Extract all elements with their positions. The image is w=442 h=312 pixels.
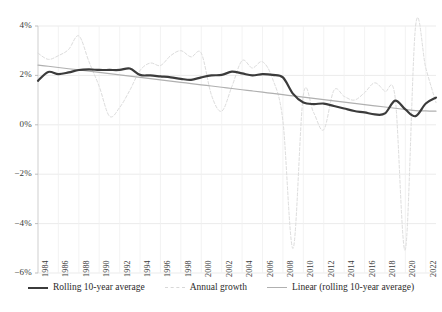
series-line-annual-growth — [38, 18, 436, 251]
x-axis-tick-label: 2002 — [225, 260, 234, 277]
chart-container: 4%2%0%−2%−4%−6% 198419861988199019921994… — [0, 0, 442, 312]
x-axis-tick-label: 1992 — [123, 260, 132, 277]
x-axis-tick-label: 2014 — [347, 260, 356, 277]
x-axis-tick-label: 2010 — [306, 260, 315, 277]
x-axis-tick-label: 2006 — [266, 260, 275, 277]
x-axis-tick-label: 1984 — [41, 260, 50, 277]
y-axis-tick-label: −6% — [2, 267, 32, 277]
chart-legend: Rolling 10-year average Annual growth Li… — [0, 283, 442, 293]
y-axis-tick-label: −4% — [2, 218, 32, 228]
legend-line-icon-linear — [267, 287, 287, 288]
x-axis-tick-label: 1994 — [143, 260, 152, 277]
legend-label-linear: Linear (rolling 10-year average) — [292, 283, 414, 293]
x-axis-tick-label: 1996 — [163, 260, 172, 277]
x-axis-tick-label: 2018 — [388, 260, 397, 277]
x-axis-tick-label: 1998 — [184, 260, 193, 277]
legend-line-icon-rolling — [28, 287, 48, 289]
y-axis-tick-label: 0% — [2, 119, 32, 129]
y-axis-tick-label: −2% — [2, 168, 32, 178]
legend-item-annual-growth[interactable]: Annual growth — [165, 283, 247, 293]
x-axis-tick-label: 2004 — [245, 260, 254, 277]
x-axis-tick-label: 1986 — [61, 260, 70, 277]
legend-item-rolling-10-year-average[interactable]: Rolling 10-year average — [28, 283, 145, 293]
legend-label-annual: Annual growth — [190, 283, 247, 293]
legend-item-linear-trend[interactable]: Linear (rolling 10-year average) — [267, 283, 414, 293]
y-axis-tick-label: 4% — [2, 20, 32, 30]
x-axis-tick-label: 2000 — [204, 260, 213, 277]
x-axis-tick-label: 2020 — [408, 260, 417, 277]
x-axis-tick-label: 1988 — [82, 260, 91, 277]
x-axis-tick-label: 2022 — [429, 260, 438, 277]
x-axis-tick-label: 2008 — [286, 260, 295, 277]
legend-label-rolling: Rolling 10-year average — [53, 283, 145, 293]
legend-line-icon-annual — [165, 287, 185, 288]
x-axis-tick-label: 1990 — [102, 260, 111, 277]
x-axis-tick-label: 2016 — [368, 260, 377, 277]
x-axis-tick-label: 2012 — [327, 260, 336, 277]
y-axis-tick-label: 2% — [2, 69, 32, 79]
